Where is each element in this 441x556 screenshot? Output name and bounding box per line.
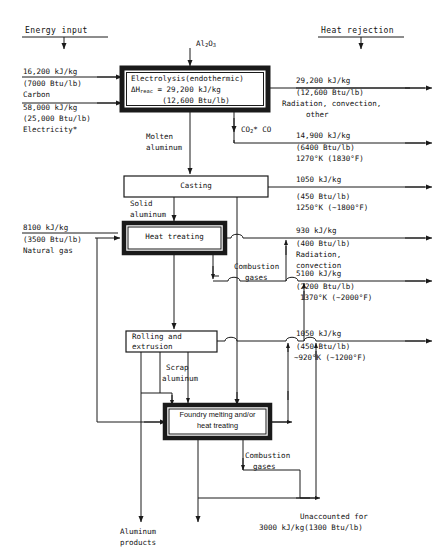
reject-5-imperial: (450 Btu/lb) — [296, 343, 350, 352]
aluminum-products-line-2: products — [120, 539, 156, 548]
combustion-gases-1-line-1: Combustion — [234, 263, 279, 272]
reject-2-temperature: 1250°K (~1800°F) — [296, 204, 368, 213]
carbon-material-label: Carbon — [23, 91, 50, 100]
foundry-combustion-right — [243, 470, 310, 498]
scrap-aluminum-line-1: Scrap — [166, 364, 189, 373]
foundry-line-1: Foundry melting and/or — [168, 410, 267, 420]
reject-0-note-1: Radiation, convection, — [282, 100, 381, 109]
reject-1-temperature: 1270°K (1830°F) — [296, 155, 364, 164]
reject-5-value: 1050 kJ/kg — [296, 330, 341, 339]
solid-aluminum-line-1: Solid — [130, 200, 153, 209]
reject-1-imperial: (6400 Btu/lb) — [296, 144, 355, 153]
heat-treating-label: Heat treating — [128, 232, 221, 242]
aluminum-products-line-1: Aluminum — [120, 528, 156, 537]
combustion-gases-2-line-2: gases — [253, 463, 276, 472]
carbon-energy-imperial: (7000 Btu/lb) — [23, 80, 82, 89]
ht-combustion-down — [213, 253, 219, 276]
combustion-gases-2-line-1: Combustion — [245, 452, 290, 461]
solid-aluminum-line-2: aluminum — [130, 211, 166, 220]
reject-5-temperature: ~920°K (~1200°F) — [294, 354, 366, 363]
reject-3-note-1: Radiation, — [296, 251, 341, 260]
electricity-energy-value: 58,000 kJ/kg — [23, 104, 77, 113]
natural-gas-to-foundry — [97, 238, 160, 422]
reject-0-value: 29,200 kJ/kg — [296, 77, 350, 86]
molten-aluminum-line-1: Molten — [146, 133, 173, 142]
co2-co-label: CO2* CO — [241, 126, 271, 135]
header-energy-input: Energy input — [25, 26, 88, 35]
reject-0-note-2: other — [306, 111, 329, 120]
natural-gas-energy-imperial: (3500 Btu/lb) — [23, 236, 82, 245]
header-heat-rejection: Heat rejection — [321, 26, 394, 35]
reject-4-temperature: 1370°K (~2000°F) — [300, 294, 372, 303]
natural-gas-energy-value: 8100 kJ/kg — [23, 224, 68, 233]
reject-3-value: 930 kJ/kg — [296, 227, 337, 236]
reject-1-value: 14,900 kJ/kg — [296, 132, 350, 141]
rolling-line-1: Rolling and — [132, 332, 212, 342]
foundry-line-2: heat treating — [168, 421, 267, 431]
natural-gas-material-label: Natural gas — [23, 247, 73, 256]
carbon-energy-value: 16,200 kJ/kg — [23, 68, 77, 77]
molten-aluminum-line-2: aluminum — [146, 144, 182, 153]
reject-4-value: 5100 kJ/kg — [296, 270, 341, 279]
scrap-aluminum-line-2: aluminum — [162, 375, 198, 384]
electrolysis-line-3: (12,600 Btu/lb) — [131, 96, 261, 106]
unaccounted-line-1: Unaccounted for — [300, 513, 368, 522]
reject-2-value: 1050 kJ/kg — [296, 176, 341, 185]
electricity-material-label: Electricity* — [23, 126, 77, 135]
alumina-feed-label: Al2O3 — [196, 40, 216, 49]
foundry-right-up — [270, 391, 288, 422]
casting-label: Casting — [124, 181, 268, 191]
rolling-line-2: extrusion — [132, 342, 212, 352]
unaccounted-line-2: 3000 kJ/kg(1300 Btu/lb) — [259, 524, 363, 533]
combustion-gases-1-line-2: gases — [245, 274, 268, 283]
electrolysis-line-1: Electrolysis(endothermic) — [131, 74, 261, 84]
reject-3-imperial: (400 Btu/lb) — [296, 240, 350, 249]
electricity-energy-imperial: (25,000 Btu/lb) — [23, 115, 91, 124]
reject-4-imperial: (2200 Btu/lb) — [296, 283, 355, 292]
reject-0-imperial: (12,600 Btu/lb) — [296, 89, 364, 98]
reject-2-imperial: (450 Btu/lb) — [296, 193, 350, 202]
electrolysis-line-2: ΔHreac = 29,200 kJ/kg — [131, 85, 261, 95]
